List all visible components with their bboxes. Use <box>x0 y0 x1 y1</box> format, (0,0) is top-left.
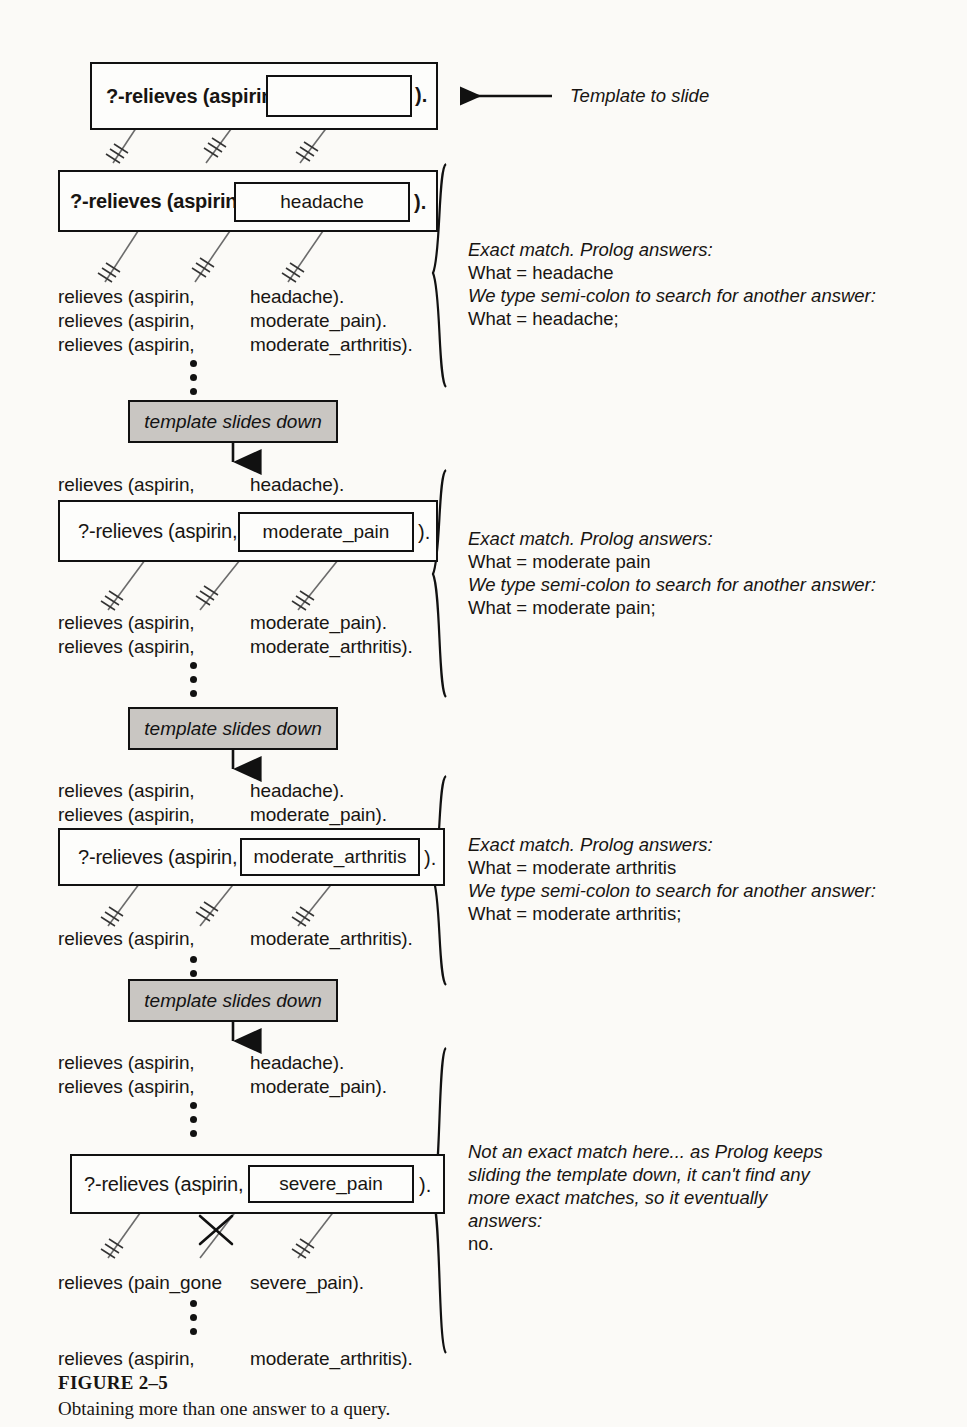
template-slot-value-3: moderate_pain <box>263 521 390 543</box>
fact-left-3-1: relieves (aspirin, <box>58 612 195 634</box>
slide-pointer-heads-5 <box>101 1239 314 1258</box>
query-suffix-2: ). <box>414 191 426 214</box>
fact-left-4-above-2: relieves (aspirin, <box>58 804 195 826</box>
slide-pointer-heads-2 <box>98 258 304 282</box>
slide-pointers-2 <box>105 228 325 282</box>
figure-page: ?-relieves (aspirin, ). Template to slid… <box>0 0 967 1427</box>
fact-right-3-2: moderate_arthritis). <box>250 636 413 658</box>
query-suffix-4: ). <box>424 847 436 870</box>
fact-right-2-2: moderate_pain). <box>250 310 387 332</box>
banner-slides-down-2: template slides down <box>128 707 338 750</box>
template-slot-value-2: headache <box>280 191 363 213</box>
note-4-line-1: Exact match. Prolog answers: <box>468 833 876 856</box>
fact-left-5-above-2: relieves (aspirin, <box>58 1076 195 1098</box>
note-2-line-1: Exact match. Prolog answers: <box>468 238 876 261</box>
fact-left-5-1: relieves (pain_gone <box>58 1272 222 1294</box>
note-3-line-3: We type semi-colon to search for another… <box>468 573 876 596</box>
note-3-line-2: What = moderate pain <box>468 550 876 573</box>
template-slot-1[interactable] <box>266 75 412 117</box>
fact-right-5-2: moderate_arthritis). <box>250 1348 413 1370</box>
note-5-line-2: sliding the template down, it can't find… <box>468 1163 823 1186</box>
note-4-line-4: What = moderate arthritis; <box>468 902 876 925</box>
fact-left-2-3: relieves (aspirin, <box>58 334 195 356</box>
ellipsis-5-above <box>190 1102 197 1144</box>
template-slot-5[interactable]: severe_pain <box>248 1165 414 1203</box>
slide-pointer-heads-1 <box>106 138 318 163</box>
template-slot-value-5: severe_pain <box>279 1173 383 1195</box>
fact-left-5-2: relieves (aspirin, <box>58 1348 195 1370</box>
banner-label-1: template slides down <box>144 411 321 433</box>
template-slot-value-4: moderate_arthritis <box>253 846 406 868</box>
fact-left-4-1: relieves (aspirin, <box>58 928 195 950</box>
query-suffix-1: ). <box>415 84 427 107</box>
template-to-slide-label: Template to slide <box>570 84 709 107</box>
fact-right-2-3: moderate_arthritis). <box>250 334 413 356</box>
note-5-line-3: more exact matches, so it eventually <box>468 1186 823 1209</box>
note-stage-3: Exact match. Prolog answers: What = mode… <box>468 527 876 619</box>
query-prefix-5: ?-relieves (aspirin, <box>84 1173 243 1196</box>
fact-right-3-1: moderate_pain). <box>250 612 387 634</box>
query-prefix-4: ?-relieves (aspirin, <box>78 846 237 869</box>
note-stage-5: Not an exact match here... as Prolog kee… <box>468 1140 823 1255</box>
note-2-line-4: What = headache; <box>468 307 876 330</box>
fact-right-5-above-2: moderate_pain). <box>250 1076 387 1098</box>
fact-left-4-above-1: relieves (aspirin, <box>58 780 195 802</box>
banner-slides-down-3: template slides down <box>128 979 338 1022</box>
note-5-line-5: no. <box>468 1232 823 1255</box>
no-match-x-icon <box>200 1216 232 1244</box>
fact-left-3-above-1: relieves (aspirin, <box>58 474 195 496</box>
banner-slides-down-1: template slides down <box>128 400 338 443</box>
note-3-line-1: Exact match. Prolog answers: <box>468 527 876 550</box>
slide-pointer-heads-3 <box>101 586 314 610</box>
note-4-line-2: What = moderate arthritis <box>468 856 876 879</box>
note-stage-4: Exact match. Prolog answers: What = mode… <box>468 833 876 925</box>
query-suffix-5: ). <box>419 1174 431 1197</box>
ellipsis-2 <box>190 360 197 402</box>
figure-label: FIGURE 2–5 <box>58 1372 168 1394</box>
ellipsis-5-below <box>190 1300 197 1342</box>
fact-right-4-above-1: headache). <box>250 780 344 802</box>
query-prefix-1: ?-relieves (aspirin, <box>106 85 279 108</box>
note-2-line-2: What = headache <box>468 261 876 284</box>
ellipsis-3 <box>190 662 197 704</box>
figure-caption: Obtaining more than one answer to a quer… <box>58 1398 390 1420</box>
slide-pointers-3 <box>108 560 338 610</box>
slide-pointer-heads-4 <box>101 902 314 926</box>
fact-right-5-1: severe_pain). <box>250 1272 364 1294</box>
query-suffix-3: ). <box>418 521 430 544</box>
note-3-line-4: What = moderate pain; <box>468 596 876 619</box>
query-prefix-2: ?-relieves (aspirin, <box>70 190 243 213</box>
banner-label-2: template slides down <box>144 718 321 740</box>
note-4-line-3: We type semi-colon to search for another… <box>468 879 876 902</box>
fact-left-3-2: relieves (aspirin, <box>58 636 195 658</box>
fact-right-5-above-1: headache). <box>250 1052 344 1074</box>
note-5-line-1: Not an exact match here... as Prolog kee… <box>468 1140 823 1163</box>
fact-right-2-1: headache). <box>250 286 344 308</box>
note-stage-2: Exact match. Prolog answers: What = head… <box>468 238 876 330</box>
fact-left-5-above-1: relieves (aspirin, <box>58 1052 195 1074</box>
template-slot-4[interactable]: moderate_arthritis <box>240 838 420 876</box>
note-5-line-4: answers: <box>468 1209 823 1232</box>
template-slot-3[interactable]: moderate_pain <box>238 512 414 552</box>
fact-right-4-1: moderate_arthritis). <box>250 928 413 950</box>
fact-left-2-2: relieves (aspirin, <box>58 310 195 332</box>
banner-label-3: template slides down <box>144 990 321 1012</box>
template-slot-2[interactable]: headache <box>234 182 410 222</box>
note-2-line-3: We type semi-colon to search for another… <box>468 284 876 307</box>
query-prefix-3: ?-relieves (aspirin, <box>78 520 237 543</box>
fact-right-4-above-2: moderate_pain). <box>250 804 387 826</box>
fact-left-2-1: relieves (aspirin, <box>58 286 195 308</box>
fact-right-3-above-1: headache). <box>250 474 344 496</box>
